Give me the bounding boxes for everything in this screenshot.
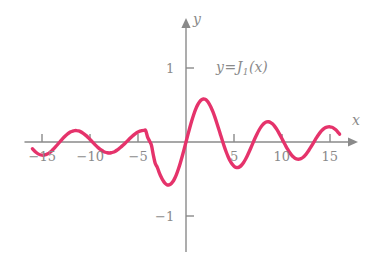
x-tick-label: −15 [29,150,56,163]
curve-equation-label: y=J1(x) [216,60,268,77]
equation-lhs: y [216,59,224,75]
x-tick-label: 5 [230,150,238,163]
x-axis-label: x [352,113,360,127]
equation-argument: (x) [249,59,268,75]
bessel-function-plot: x y y=J1(x) −15−10−5510151−1 [0,0,375,267]
x-tick-label: −5 [129,150,148,163]
x-tick-label: 15 [322,150,339,163]
equation-subscript: 1 [242,67,249,77]
x-tick-label: 10 [274,150,291,163]
x-tick-label: −10 [77,150,104,163]
y-axis-arrowhead [181,18,190,28]
equation-equals: = [224,59,237,75]
plot-canvas [0,0,375,267]
x-axis-arrowhead [348,137,358,146]
y-axis-label: y [193,12,201,26]
y-tick-label: 1 [166,62,174,75]
axes-group [24,18,358,252]
y-tick-label: −1 [155,210,174,223]
